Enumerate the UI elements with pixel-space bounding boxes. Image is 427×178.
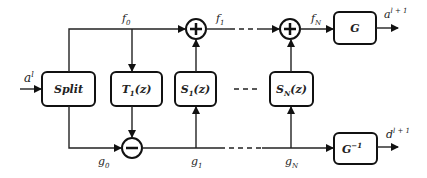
sN-label: SN(z) [276,83,307,98]
d-next-label: dl + 1 [386,127,410,141]
gN-label: gN [285,155,299,170]
g0-line [69,106,121,148]
a-next-label: al + 1 [384,7,408,21]
g1-label: g1 [191,155,203,170]
f0-line [69,29,185,72]
f1-label: f1 [215,12,225,27]
lifting-diagram: al Split f0 T1(z) g0 g1 gN S1(z) f1 SN(z… [0,0,427,178]
g0-label: g0 [98,155,110,170]
s1-label: S1(z) [181,83,210,98]
input-label: al [24,70,34,85]
f0-label: f0 [121,12,131,27]
fN-label: fN [310,12,322,27]
split-label: Split [54,83,83,96]
t1-label: T1(z) [122,83,152,98]
g-label: G [350,22,359,35]
